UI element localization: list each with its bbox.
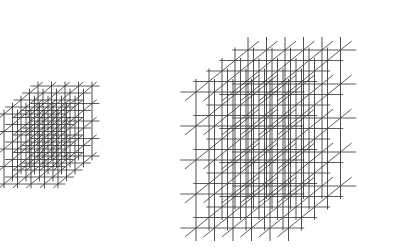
background-rect <box>0 0 399 248</box>
lattice-diagram <box>0 0 399 248</box>
figure-canvas <box>0 0 399 248</box>
